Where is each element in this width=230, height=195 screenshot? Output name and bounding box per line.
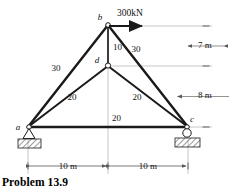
truss-figure: 30 10 30 20 20 20 a b c d 300kN 7 m 8 m … <box>0 0 229 195</box>
member-bc-label: 30 <box>132 44 142 54</box>
truss-diagram: 30 10 30 20 20 20 a b c d 300kN 7 m 8 m … <box>0 0 229 195</box>
ground-hatch-a <box>18 139 41 148</box>
figure-caption: Problem 13.9 <box>2 176 68 188</box>
node-label-c: c <box>190 114 194 124</box>
roller-circle-c <box>183 129 191 137</box>
pin-triangle-a <box>23 129 35 139</box>
member-dc-label: 20 <box>133 92 143 102</box>
ground-hatch-c <box>175 138 200 147</box>
support-roller-c <box>175 129 200 147</box>
vertical-dimension-lines <box>178 46 230 97</box>
node-label-b: b <box>98 12 103 22</box>
load-label-300kn: 300kN <box>117 8 143 18</box>
dimension-height-top-label: 7 m <box>198 40 212 50</box>
member-ab-label: 30 <box>52 63 62 73</box>
node-label-d: d <box>95 55 100 65</box>
node-label-a: a <box>16 122 21 132</box>
dimension-span-right-label: 10 m <box>139 161 157 171</box>
dimension-height-bottom-label: 8 m <box>198 90 212 100</box>
joint-d <box>105 63 110 68</box>
dimension-span-left-label: 10 m <box>59 161 77 171</box>
support-pin-a <box>18 129 41 149</box>
member-ad-label: 20 <box>68 92 78 102</box>
member-ac-label: 20 <box>112 113 122 123</box>
member-bd-label: 10 <box>113 42 123 52</box>
